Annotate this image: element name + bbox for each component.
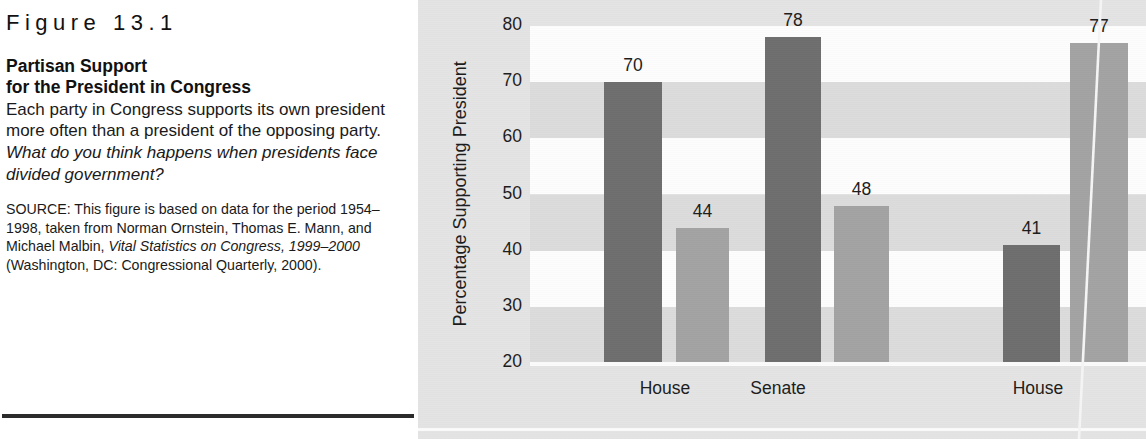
y-tick-60: 60	[486, 126, 522, 147]
category-label-house-0: House	[605, 378, 725, 399]
bar-senate-78[interactable]	[765, 37, 821, 363]
y-axis-tick-labels: 80706050403020	[474, 0, 522, 439]
y-tick-20: 20	[486, 351, 522, 372]
figure-page: Figure 13.1 Partisan Support for the Pre…	[0, 0, 1146, 439]
figure-source: SOURCE: This figure is based on data for…	[6, 200, 406, 276]
chart-panel: 80706050403020 Percentage Supporting Pre…	[418, 0, 1146, 439]
source-suffix: (Washington, DC: Congressional Quarterly…	[6, 257, 321, 273]
bar-house-44[interactable]	[676, 228, 729, 363]
figure-title: Partisan Support for the President in Co…	[6, 56, 406, 99]
bar-house-70[interactable]	[604, 82, 662, 363]
bar-senate-48[interactable]	[834, 206, 889, 363]
figure-bottom-rule	[418, 428, 1146, 431]
bar-value-label-78: 78	[763, 10, 823, 31]
bar-house-41[interactable]	[1003, 245, 1060, 363]
y-axis-title: Percentage Supporting President	[450, 67, 471, 327]
caption-panel: Figure 13.1 Partisan Support for the Pre…	[0, 0, 418, 439]
figure-description-question: What do you think happens when president…	[6, 143, 377, 184]
y-tick-70: 70	[486, 70, 522, 91]
y-tick-30: 30	[486, 295, 522, 316]
bar-value-label-41: 41	[1002, 218, 1062, 239]
caption-divider-rule	[2, 414, 414, 418]
figure-title-line-2: for the President in Congress	[6, 77, 406, 98]
y-tick-50: 50	[486, 183, 522, 204]
bar-value-label-48: 48	[832, 179, 892, 200]
bar-house-77[interactable]	[1070, 43, 1128, 363]
bar-value-label-44: 44	[673, 201, 733, 222]
category-label-house-2: House	[978, 378, 1098, 399]
figure-description: Each party in Congress supports its own …	[6, 99, 406, 186]
y-tick-40: 40	[486, 239, 522, 260]
bar-value-label-77: 77	[1069, 16, 1129, 37]
category-label-senate-1: Senate	[718, 378, 838, 399]
figure-title-line-1: Partisan Support	[6, 56, 406, 77]
source-citation-title: Vital Statistics on Congress, 1999–2000	[109, 238, 360, 254]
figure-number: Figure 13.1	[6, 10, 406, 36]
figure-description-plain: Each party in Congress supports its own …	[6, 100, 385, 141]
bar-value-label-70: 70	[603, 55, 663, 76]
y-tick-80: 80	[486, 14, 522, 35]
x-axis-line	[530, 362, 1146, 366]
